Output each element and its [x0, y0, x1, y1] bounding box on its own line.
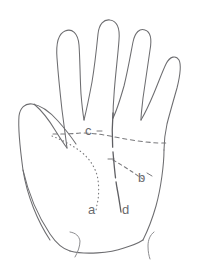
crease-b-tick-icon [147, 173, 152, 176]
middle-finger-outline [84, 20, 119, 120]
crease-d-path [112, 113, 121, 212]
thumb-outline [19, 104, 76, 240]
palm-right-edge-outline [143, 150, 164, 240]
crease-label-d: d [122, 202, 129, 217]
crease-label-a: a [88, 202, 96, 217]
crease-line-c [53, 131, 169, 143]
wrist-crease-right-icon [148, 232, 154, 259]
hand-outline [19, 20, 181, 253]
palm-left-heel-outline [23, 170, 70, 251]
crease-label-c: c [85, 123, 92, 138]
crease-label-b: b [138, 170, 145, 185]
hand-palm-crease-diagram: c b a d [0, 0, 199, 267]
crease-line-a [52, 136, 99, 212]
hand-drawing: c b a d [0, 0, 199, 267]
wrist-crease-marks [70, 232, 154, 259]
crease-line-d [112, 113, 121, 212]
crease-c-path [53, 133, 169, 143]
index-finger-outline [57, 30, 84, 148]
crease-a-path [52, 136, 99, 212]
wrist-outline [70, 240, 143, 253]
wrist-crease-left-icon [70, 232, 80, 257]
